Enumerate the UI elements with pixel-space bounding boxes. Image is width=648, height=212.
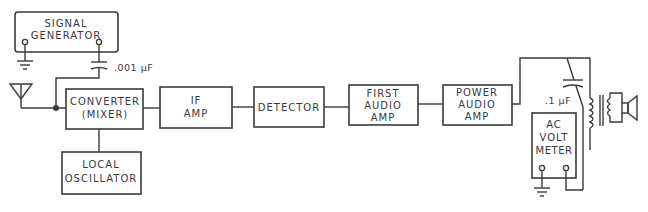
if-amp-label-2: AMP <box>184 108 209 119</box>
antenna-icon <box>10 84 32 108</box>
first-audio-amp-block: FIRST AUDIO AMP <box>349 85 418 125</box>
local-oscillator-block: LOCAL OSCILLATOR <box>62 152 141 194</box>
signal-generator-label-1: SIGNAL <box>45 18 88 29</box>
detector-block: DETECTOR <box>254 87 324 127</box>
ac-volt-meter-block: AC VOLT METER <box>532 113 576 178</box>
power-audio-amp-label-2: AUDIO <box>458 99 496 110</box>
speaker-icon <box>622 96 637 120</box>
signal-generator-label-2: GENERATOR <box>31 30 101 41</box>
junction-dot-icon <box>53 105 59 111</box>
receiver-test-block-diagram: SIGNAL GENERATOR .001 μF CONVERTER (MIXE… <box>0 0 648 212</box>
transformer-icon <box>590 93 622 150</box>
capacitor-icon <box>91 62 107 69</box>
converter-mixer-block: CONVERTER (MIXER) <box>66 89 143 129</box>
meter-ground-terminal-icon <box>539 165 544 170</box>
ac-volt-meter-label-1: AC <box>546 119 562 130</box>
generator-ground-terminal-icon <box>22 39 27 44</box>
if-amp-block: IF AMP <box>160 87 232 128</box>
first-audio-amp-label-1: FIRST <box>366 88 399 99</box>
generator-output-terminal-icon <box>96 39 101 44</box>
first-audio-amp-label-3: AMP <box>371 112 396 123</box>
if-amp-label-1: IF <box>191 95 202 106</box>
output-capacitor-label: .1 μF <box>545 95 571 106</box>
local-oscillator-label-2: OSCILLATOR <box>65 173 138 184</box>
meter-input-terminal-icon <box>563 165 568 170</box>
detector-label: DETECTOR <box>258 102 320 113</box>
input-capacitor-label: .001 μF <box>114 62 153 73</box>
power-audio-amp-label-3: AMP <box>465 111 490 122</box>
first-audio-amp-label-2: AUDIO <box>364 100 402 111</box>
converter-label-2: (MIXER) <box>82 109 129 120</box>
local-oscillator-label-1: LOCAL <box>82 159 119 170</box>
ac-volt-meter-label-2: VOLT <box>540 132 569 143</box>
ac-volt-meter-label-3: METER <box>536 145 573 156</box>
power-audio-amp-label-1: POWER <box>456 87 498 98</box>
converter-label-1: CONVERTER <box>70 96 140 107</box>
power-audio-amp-block: POWER AUDIO AMP <box>443 85 512 125</box>
signal-generator-block: SIGNAL GENERATOR <box>15 12 118 52</box>
